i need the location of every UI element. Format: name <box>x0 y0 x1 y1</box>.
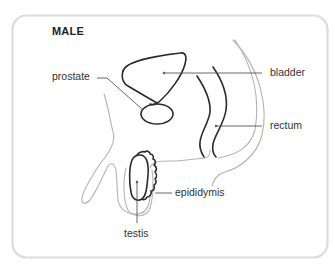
bladder-leader-dot <box>163 72 165 74</box>
sacrum-curve-inner <box>218 40 257 158</box>
rectum-leader-dot <box>215 125 217 127</box>
rectum-wall-right <box>213 67 227 157</box>
label-prostate: prostate <box>52 71 90 82</box>
abdomen-front <box>82 94 150 214</box>
diagram-title: MALE <box>52 26 84 37</box>
prostate-shape <box>141 104 173 124</box>
testis-shape <box>130 155 149 200</box>
label-testis: testis <box>124 228 149 239</box>
body-outline <box>82 40 264 216</box>
diagram-card: MALE prostate bladder rectum epididymis … <box>0 0 335 269</box>
anatomy-drawing <box>0 0 335 269</box>
testis-leader-dot <box>136 181 138 183</box>
label-bladder: bladder <box>270 67 305 78</box>
prostate-leader <box>97 78 142 109</box>
rectum-wall-left <box>197 76 210 157</box>
label-epididymis: epididymis <box>175 187 225 198</box>
epididymis-shape <box>137 151 157 199</box>
organs <box>122 53 226 200</box>
card-border <box>13 16 328 258</box>
label-rectum: rectum <box>270 120 302 131</box>
bladder-shape <box>122 53 186 105</box>
leader-lines <box>97 72 262 223</box>
